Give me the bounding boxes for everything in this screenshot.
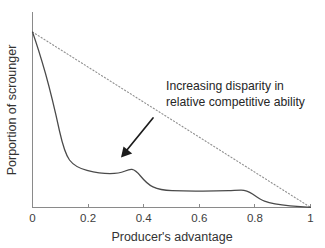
annotation-text-block: Increasing disparity in relative competi… xyxy=(166,79,306,109)
x-tick-label-5: 1 xyxy=(307,212,313,224)
annotation-line-2: relative competitive ability xyxy=(166,95,306,109)
reference-diagonal-line xyxy=(33,32,311,207)
y-axis-title: Porportion of scrounger xyxy=(5,45,19,176)
annotation-arrow xyxy=(121,118,153,158)
x-tick-label-1: 0.2 xyxy=(80,212,96,224)
x-tick-label-4: 0.8 xyxy=(247,212,263,224)
x-axis-title: Producer's advantage xyxy=(111,230,232,244)
x-tick-labels: 0 0.2 0.4 0.6 0.8 1 xyxy=(29,212,313,224)
x-tick-label-0: 0 xyxy=(29,212,35,224)
annotation-line-1: Increasing disparity in xyxy=(166,79,284,93)
x-tick-label-3: 0.6 xyxy=(191,212,207,224)
chart-figure: 0 0.2 0.4 0.6 0.8 1 Producer's advantage… xyxy=(0,0,325,248)
x-axis-ticks xyxy=(33,204,311,208)
x-tick-label-2: 0.4 xyxy=(136,212,153,224)
chart-plot-area: 0 0.2 0.4 0.6 0.8 1 Producer's advantage… xyxy=(0,0,325,248)
